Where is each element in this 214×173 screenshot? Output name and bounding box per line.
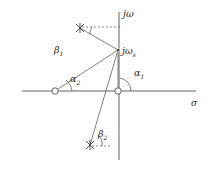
- alpha-1-angle-arc: [120, 78, 131, 91]
- sigma-axis-label: σ: [191, 98, 198, 108]
- alpha-1-subscript: 1: [140, 73, 144, 80]
- beta-1-label: β1: [53, 44, 63, 57]
- alpha-2-subscript: 2: [75, 79, 80, 86]
- pole-zero-figure: jω σ jωs α1 α2 β1 β2: [0, 0, 214, 173]
- zero-marker-origin: [115, 88, 121, 94]
- j-omega-s-subscript: s: [133, 51, 136, 58]
- test-point-marker: [117, 49, 119, 51]
- alpha-2-label: α2: [70, 73, 80, 86]
- beta-2-label: β2: [97, 128, 108, 141]
- j-omega-s-label: jωs: [120, 45, 136, 58]
- j-omega-s-base: jω: [120, 45, 133, 56]
- s-plane-diagram: jω σ jωs α1 α2 β1 β2: [0, 0, 214, 173]
- vector-pole-lower-to-test-point: [90, 50, 118, 145]
- zero-marker-left: [52, 88, 58, 94]
- beta-1-angle-arc: [90, 27, 92, 34]
- vector-pole-upper-to-test-point: [80, 28, 118, 50]
- vector-zero-left-to-test-point: [55, 50, 118, 91]
- beta-1-subscript: 1: [60, 50, 64, 57]
- alpha-1-label: α1: [134, 67, 144, 80]
- beta-2-subscript: 2: [103, 134, 108, 141]
- j-omega-axis-label: jω: [121, 8, 134, 19]
- pole-marker-upper: [76, 23, 84, 33]
- pole-marker-lower: [86, 140, 94, 150]
